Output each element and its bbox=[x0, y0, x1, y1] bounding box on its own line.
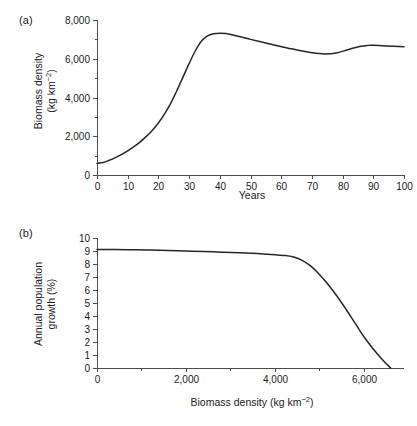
panel-a-plot: 02,0004,0006,0008,0000102030405060708090… bbox=[0, 0, 417, 213]
svg-text:2: 2 bbox=[84, 337, 90, 348]
panel-a: (a) Biomass density (kg km−2) Years 02,0… bbox=[0, 0, 417, 213]
svg-text:100: 100 bbox=[396, 181, 413, 192]
svg-text:4,000: 4,000 bbox=[65, 93, 90, 104]
svg-text:60: 60 bbox=[276, 181, 288, 192]
figure-container: (a) Biomass density (kg km−2) Years 02,0… bbox=[0, 0, 417, 426]
svg-text:5: 5 bbox=[84, 298, 90, 309]
svg-text:8: 8 bbox=[84, 259, 90, 270]
svg-text:0: 0 bbox=[84, 170, 90, 181]
svg-text:9: 9 bbox=[84, 246, 90, 257]
svg-text:7: 7 bbox=[84, 272, 90, 283]
svg-text:50: 50 bbox=[246, 181, 258, 192]
svg-text:6,000: 6,000 bbox=[352, 374, 377, 385]
svg-text:4,000: 4,000 bbox=[263, 374, 288, 385]
svg-text:80: 80 bbox=[338, 181, 350, 192]
panel-b: (b) Annual population growth (%) Biomass… bbox=[0, 213, 417, 426]
panel-b-plot: 01234567891002,0004,0006,000 bbox=[0, 213, 417, 426]
svg-text:1: 1 bbox=[84, 350, 90, 361]
svg-text:6,000: 6,000 bbox=[65, 54, 90, 65]
svg-text:10: 10 bbox=[123, 181, 135, 192]
svg-text:20: 20 bbox=[153, 181, 165, 192]
svg-text:3: 3 bbox=[84, 324, 90, 335]
svg-text:0: 0 bbox=[95, 374, 101, 385]
svg-text:70: 70 bbox=[307, 181, 319, 192]
svg-text:0: 0 bbox=[84, 363, 90, 374]
svg-text:4: 4 bbox=[84, 311, 90, 322]
svg-text:90: 90 bbox=[368, 181, 380, 192]
svg-text:10: 10 bbox=[79, 233, 91, 244]
svg-text:8,000: 8,000 bbox=[65, 15, 90, 26]
svg-text:40: 40 bbox=[215, 181, 227, 192]
svg-text:30: 30 bbox=[184, 181, 196, 192]
svg-text:2,000: 2,000 bbox=[65, 131, 90, 142]
svg-text:0: 0 bbox=[95, 181, 101, 192]
svg-text:6: 6 bbox=[84, 285, 90, 296]
svg-text:2,000: 2,000 bbox=[174, 374, 199, 385]
